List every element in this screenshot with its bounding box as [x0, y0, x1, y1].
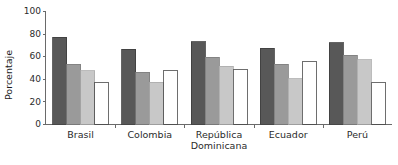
bar: [164, 71, 178, 124]
bar: [274, 64, 288, 124]
y-tick-label-0: 0: [35, 119, 41, 129]
bar-chart-figure: Porcentaje 020406080100 BrasilColombiaRe…: [0, 0, 398, 165]
bar: [343, 55, 357, 124]
x-category-label: Dominicana: [191, 140, 248, 151]
y-tick-label-60: 60: [30, 51, 42, 61]
y-tick-label-80: 80: [30, 29, 42, 39]
bar: [205, 57, 219, 124]
bar: [302, 62, 316, 124]
y-axis-title: Porcentaje: [3, 50, 14, 100]
bar: [150, 82, 164, 124]
bar: [136, 72, 150, 124]
bar: [371, 82, 385, 124]
y-axis-tick-labels: 020406080100: [24, 6, 41, 129]
y-tick-label-40: 40: [30, 74, 42, 84]
x-category-label: Brasil: [67, 129, 93, 140]
bar: [357, 60, 371, 124]
bar: [288, 79, 302, 124]
bar: [95, 82, 109, 124]
x-category-label: República: [196, 129, 242, 140]
x-category-label: Ecuador: [269, 129, 308, 140]
bar: [233, 70, 247, 124]
bar: [81, 71, 95, 124]
bar: [67, 64, 81, 124]
y-tick-label-20: 20: [30, 97, 42, 107]
bar: [219, 66, 233, 124]
bar: [53, 37, 67, 124]
y-tick-label-100: 100: [24, 6, 41, 16]
chart-canvas: Porcentaje 020406080100 BrasilColombiaRe…: [0, 0, 398, 165]
bar: [329, 43, 343, 124]
bars-layer: [53, 37, 386, 124]
x-category-label: Perú: [347, 129, 368, 140]
bar: [191, 42, 205, 125]
bar: [260, 48, 274, 124]
x-category-label: Colombia: [127, 129, 172, 140]
bar: [122, 49, 136, 124]
y-axis-title-label: Porcentaje: [3, 50, 14, 100]
x-axis-tick-marks: [116, 125, 324, 129]
x-axis-category-labels: BrasilColombiaRepúblicaDominicanaEcuador…: [67, 129, 368, 151]
